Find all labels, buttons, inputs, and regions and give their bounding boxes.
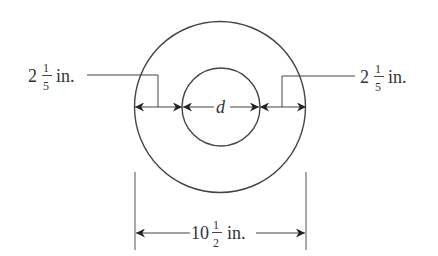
svg-text:1: 1 [43,61,49,75]
outer-diameter-label: 10 1 2 in. [191,218,246,250]
svg-text:5: 5 [43,79,49,93]
diagram-canvas: 2 1 5 in. 2 1 5 in. d 10 1 2 in. [0,0,438,256]
left-ring-width-label: 2 1 5 in. [28,61,75,93]
svg-text:2: 2 [360,67,369,87]
svg-text:in.: in. [56,66,75,86]
right-ring-dimension [260,76,355,107]
svg-text:5: 5 [375,80,381,94]
svg-text:in.: in. [388,67,407,87]
right-ring-width-label: 2 1 5 in. [360,62,407,94]
svg-text:1: 1 [213,218,219,232]
outer-diameter-dimension [135,172,306,250]
diameter-label: d [216,97,226,117]
svg-text:2: 2 [28,66,37,86]
svg-text:in.: in. [227,223,246,243]
svg-text:2: 2 [213,236,219,250]
svg-text:1: 1 [375,62,381,76]
svg-text:10: 10 [191,223,209,243]
